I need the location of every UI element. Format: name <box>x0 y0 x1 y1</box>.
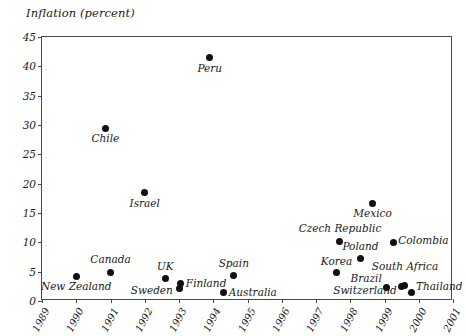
data-point-label: Finland <box>186 278 227 289</box>
data-point[interactable] <box>206 54 213 61</box>
data-point-label: Spain <box>219 258 249 269</box>
x-tick-label: 1998 <box>338 306 360 334</box>
inflation-scatter-chart: Inflation (percent) 051015202530354045 1… <box>0 0 466 336</box>
x-tick-mark <box>350 299 351 303</box>
data-point-label: Czech Republic <box>299 223 382 234</box>
y-tick-label: 40 <box>23 60 36 72</box>
x-tick-mark <box>385 299 386 303</box>
x-tick-label: 1990 <box>64 306 86 334</box>
x-tick-label: 1995 <box>236 306 258 334</box>
x-tick-label: 2000 <box>407 306 429 334</box>
y-tick-mark <box>38 66 42 67</box>
data-point-label: Canada <box>90 254 130 265</box>
data-point[interactable] <box>141 189 148 196</box>
x-tick-mark <box>111 299 112 303</box>
x-tick-mark <box>248 299 249 303</box>
y-tick-mark <box>38 272 42 273</box>
x-tick-label: 1993 <box>167 306 189 334</box>
y-tick-label: 0 <box>29 295 36 307</box>
data-point[interactable] <box>408 289 415 296</box>
x-tick-label: 2001 <box>441 306 463 334</box>
data-point[interactable] <box>390 239 397 246</box>
y-tick-mark <box>38 96 42 97</box>
data-point-label: Thailand <box>416 281 463 292</box>
x-tick-label: 1991 <box>99 306 121 334</box>
y-tick-mark <box>38 184 42 185</box>
x-tick-label: 1997 <box>304 306 326 334</box>
data-point-label: Sweden <box>131 285 173 296</box>
y-tick-label: 45 <box>23 31 36 43</box>
chart-axis-title: Inflation (percent) <box>26 6 135 20</box>
data-point-label: Colombia <box>398 235 448 246</box>
y-tick-label: 10 <box>23 236 36 248</box>
data-point[interactable] <box>333 269 340 276</box>
data-point-label: Poland <box>342 241 378 252</box>
y-tick-label: 35 <box>23 90 36 102</box>
x-tick-mark <box>179 299 180 303</box>
plot-area: 051015202530354045 198919901991199219931… <box>41 36 452 300</box>
y-tick-label: 15 <box>23 207 36 219</box>
data-point[interactable] <box>162 275 169 282</box>
y-tick-mark <box>38 154 42 155</box>
data-point-label: Peru <box>198 63 223 74</box>
data-point-label: Switzerland <box>333 285 397 296</box>
data-point-label: Mexico <box>353 208 391 219</box>
x-tick-mark <box>316 299 317 303</box>
y-tick-label: 5 <box>29 266 36 278</box>
data-point-label: Israel <box>130 198 160 209</box>
data-point[interactable] <box>357 255 364 262</box>
y-tick-mark <box>38 242 42 243</box>
data-point[interactable] <box>220 289 227 296</box>
y-tick-mark <box>38 213 42 214</box>
x-tick-label: 1994 <box>201 306 223 334</box>
y-tick-label: 30 <box>23 119 36 131</box>
y-tick-label: 20 <box>23 178 36 190</box>
data-point[interactable] <box>230 272 237 279</box>
y-tick-mark <box>38 37 42 38</box>
x-tick-label: 1996 <box>270 306 292 334</box>
data-point[interactable] <box>369 200 376 207</box>
y-tick-mark <box>38 125 42 126</box>
data-point-label: Chile <box>91 133 119 144</box>
x-tick-label: 1999 <box>373 306 395 334</box>
x-tick-mark <box>76 299 77 303</box>
x-tick-mark <box>419 299 420 303</box>
x-tick-mark <box>213 299 214 303</box>
data-point-label: South Africa <box>372 261 438 272</box>
x-tick-mark <box>282 299 283 303</box>
data-point-label: New Zealand <box>41 281 112 292</box>
y-tick-label: 25 <box>23 148 36 160</box>
x-tick-mark <box>453 299 454 303</box>
data-point[interactable] <box>107 269 114 276</box>
data-point-label: Brazil <box>351 273 382 284</box>
data-point-label: UK <box>157 261 174 272</box>
x-tick-mark <box>42 299 43 303</box>
data-point-label: Australia <box>229 287 277 298</box>
x-tick-label: 1992 <box>133 306 155 334</box>
x-tick-label: 1989 <box>30 306 52 334</box>
data-point-label: Korea <box>321 256 352 267</box>
x-tick-mark <box>145 299 146 303</box>
data-point[interactable] <box>401 282 408 289</box>
